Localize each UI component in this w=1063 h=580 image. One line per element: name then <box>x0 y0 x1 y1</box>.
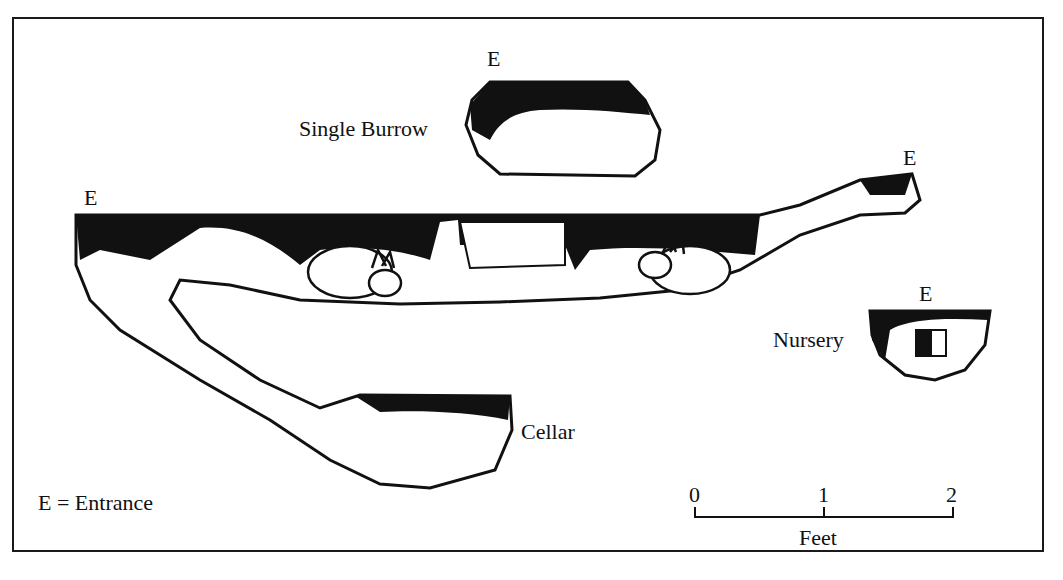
scale-tick-0: 0 <box>689 484 700 506</box>
nursery-label: Nursery <box>773 329 844 351</box>
scale-bar <box>695 507 953 517</box>
nursery-chamber <box>870 311 990 380</box>
cellar-label: Cellar <box>521 421 575 443</box>
scale-tick-2: 2 <box>946 484 957 506</box>
burrow-illustration <box>0 0 1063 580</box>
entrance-label-nursery: E <box>919 283 932 305</box>
single-burrow-label: Single Burrow <box>299 118 428 140</box>
legend-text: E = Entrance <box>38 492 153 514</box>
entrance-label-single-burrow: E <box>487 48 500 70</box>
entrance-label-left: E <box>84 187 97 209</box>
entrance-label-right: E <box>903 147 916 169</box>
scale-tick-1: 1 <box>818 484 829 506</box>
single-burrow-chamber <box>466 82 660 176</box>
scale-unit-label: Feet <box>799 527 837 549</box>
